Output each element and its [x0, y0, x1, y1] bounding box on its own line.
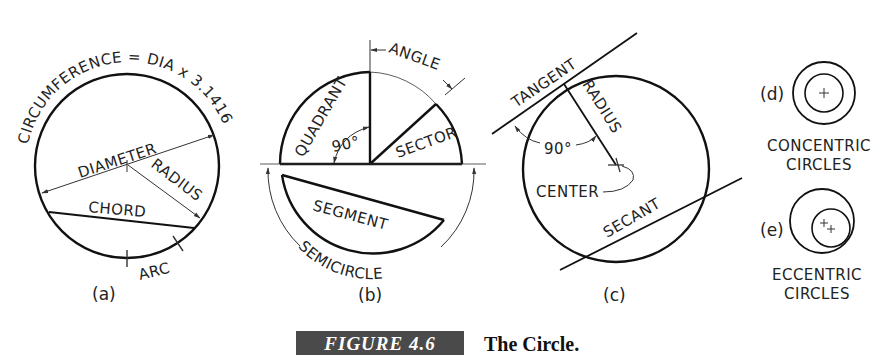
sector-label: SECTOR [393, 123, 459, 162]
radius-label-c: RADIUS [579, 77, 626, 137]
panel-e: (e) ECCENTRIC CIRCLES [760, 189, 862, 303]
eccentric-outer [790, 189, 854, 253]
concentric-label-2: CIRCLES [786, 156, 852, 174]
angle-arrow-right [443, 80, 452, 89]
circumference-label: CIRCUMFERENCE = DIA x 3.1416 [14, 48, 236, 146]
panel-d-tag: (d) [760, 84, 784, 104]
figure-number: FIGURE 4.6 [296, 333, 464, 355]
eccentric-label-2: CIRCLES [784, 285, 850, 303]
angle-label: ANGLE [387, 39, 443, 74]
panel-b: ANGLE QUADRANT 90° SECTOR SEGMENT SEMICI… [260, 39, 486, 305]
panel-a: CIRCUMFERENCE = DIA x 3.1416 DIAMETER RA… [14, 48, 236, 304]
tangent-90-label: 90° [544, 140, 572, 158]
center-label: CENTER [536, 183, 599, 201]
center-leader [603, 166, 634, 192]
concentric-label-1: CONCENTRIC [767, 137, 871, 155]
figure-title: The Circle. [484, 333, 579, 356]
panel-b-tag: (b) [358, 285, 382, 305]
angle-extension-diagonal [445, 78, 465, 95]
panel-c-tag: (c) [603, 285, 626, 305]
diameter-label: DIAMETER [76, 139, 159, 181]
semicircle-arc-right [441, 168, 474, 247]
arc-label: ARC [137, 259, 172, 284]
panel-a-tag: (a) [92, 284, 116, 304]
panel-d: (d) CONCENTRIC CIRCLES [760, 62, 871, 174]
semicircle-label: SEMICIRCLE [295, 237, 384, 283]
radius-label: RADIUS [148, 155, 206, 205]
angle-arc-thin [370, 72, 436, 104]
eccentric-label-1: ECCENTRIC [772, 266, 862, 284]
tangent-90-arc-right [576, 136, 596, 145]
panel-e-tag: (e) [760, 220, 784, 240]
tangent-label: TANGENT [507, 55, 580, 112]
panel-c: TANGENT RADIUS CENTER 90° SECANT (c) [492, 33, 742, 305]
quadrant-90-label: 90° [330, 132, 361, 155]
